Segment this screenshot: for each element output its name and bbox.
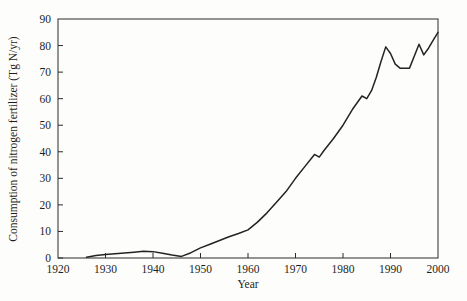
y-tick-label: 80 [40, 40, 52, 52]
x-tick-label: 1920 [47, 263, 70, 275]
y-tick-label: 20 [40, 199, 52, 211]
x-tick-label: 1970 [284, 263, 307, 275]
y-tick-label: 30 [40, 172, 52, 184]
x-axis-title: Year [237, 278, 258, 290]
y-tick-label: 60 [40, 93, 52, 105]
figure-container: 0102030405060708090 19201930194019501960… [0, 0, 467, 301]
x-tick-label: 1940 [142, 263, 165, 275]
x-tick-label: 1980 [332, 263, 355, 275]
data-series-line [87, 32, 439, 257]
y-tick-label: 40 [40, 146, 52, 158]
y-tick-label: 90 [40, 13, 52, 25]
x-tick-label: 1990 [379, 263, 402, 275]
x-tick-label: 1960 [237, 263, 260, 275]
y-tick-label: 10 [40, 225, 52, 237]
y-tick-label: 50 [40, 119, 52, 131]
y-axis-ticks: 0102030405060708090 [40, 13, 64, 264]
x-axis-ticks: 192019301940195019601970198019902000 [47, 253, 450, 275]
x-tick-label: 2000 [427, 263, 450, 275]
line-chart: 0102030405060708090 19201930194019501960… [0, 0, 467, 301]
x-tick-label: 1950 [189, 263, 212, 275]
plot-frame [58, 19, 438, 258]
x-tick-label: 1930 [94, 263, 117, 275]
y-axis-title: Consumption of nitrogen fertilizer (Tg N… [7, 36, 20, 242]
y-tick-label: 70 [40, 66, 52, 78]
